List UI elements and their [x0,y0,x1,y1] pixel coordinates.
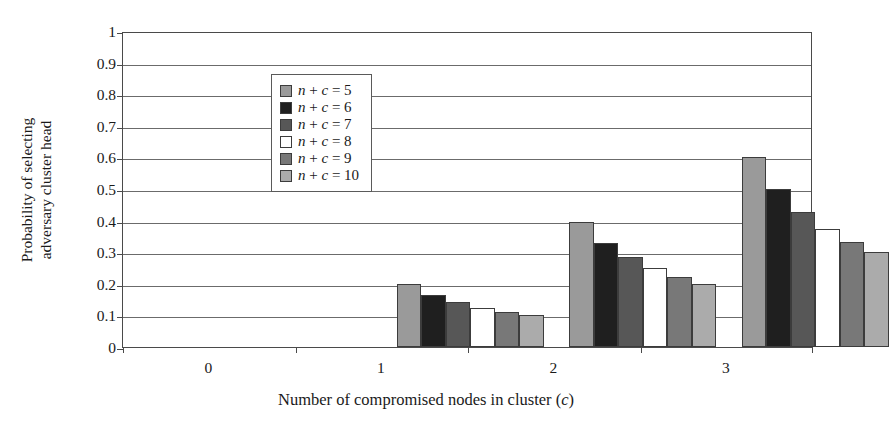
y-tick-label: 0.2 [64,277,116,293]
bar [397,284,422,347]
bar [618,257,643,347]
y-tick-label: 0.1 [64,309,116,325]
bar [495,312,520,347]
y-tick-label: 0.7 [64,119,116,135]
gridline [123,128,811,129]
x-axis-title-italic-c: c [561,390,568,409]
y-tick-mark [117,286,123,287]
y-tick-label: 0.9 [64,56,116,72]
y-tick-label: 0.8 [64,87,116,103]
bar [742,157,767,347]
x-tick-label: 1 [377,360,385,376]
bar [519,315,544,347]
bar [594,243,619,347]
legend-swatch-icon [280,102,292,114]
legend-item: n + c = 8 [280,133,359,150]
x-axis-title: Number of compromised nodes in cluster (… [0,390,852,410]
bar [692,284,717,347]
y-tick-mark [117,96,123,97]
legend-label: n + c = 9 [298,151,352,166]
y-tick-mark [117,65,123,66]
y-tick-mark [117,254,123,255]
gridline [123,254,811,255]
x-tick-mark [123,347,124,353]
legend-label: n + c = 8 [298,134,352,149]
gridline [123,65,811,66]
x-tick-label: 3 [722,360,730,376]
y-tick-mark [117,223,123,224]
bar [815,229,840,348]
legend-item: n + c = 9 [280,150,359,167]
gridline [123,191,811,192]
y-axis-title-line-1: Probability of selecting [17,118,36,263]
legend-label: n + c = 6 [298,100,352,115]
legend-item: n + c = 7 [280,116,359,133]
y-tick-label: 0.3 [64,245,116,261]
bar [667,277,692,347]
y-tick-label: 0.4 [64,214,116,230]
legend: n + c = 5n + c = 6n + c = 7n + c = 8n + … [271,74,372,192]
legend-swatch-icon [280,170,292,182]
y-tick-mark [117,317,123,318]
x-axis-title-main: Number of compromised nodes in cluster ( [278,390,561,409]
plot-area: n + c = 5n + c = 6n + c = 7n + c = 8n + … [122,32,812,348]
x-axis-title-tail: ) [569,390,575,409]
x-tick-mark [812,347,813,353]
legend-swatch-icon [280,153,292,165]
x-tick-mark [296,347,297,353]
bar [470,308,495,348]
y-axis-title: Probability of selecting adversary clust… [14,32,58,348]
bar [446,302,471,347]
bar [791,212,816,347]
legend-item: n + c = 6 [280,99,359,116]
y-tick-label: 0.5 [64,182,116,198]
y-axis-title-line-2: adversary cluster head [36,118,55,263]
legend-swatch-icon [280,85,292,97]
y-tick-label: 0 [64,340,116,356]
x-tick-mark [641,347,642,353]
bar [421,295,446,347]
x-tick-mark [468,347,469,353]
bar [569,222,594,347]
bar [643,268,668,347]
y-tick-mark [117,33,123,34]
legend-item: n + c = 5 [280,82,359,99]
legend-label: n + c = 5 [298,83,352,98]
bar [840,242,865,347]
y-tick-mark [117,191,123,192]
bar [766,189,791,347]
y-tick-label: 1 [64,24,116,40]
bar [864,252,889,347]
x-tick-label: 2 [549,360,557,376]
y-tick-mark [117,128,123,129]
legend-swatch-icon [280,119,292,131]
y-tick-mark [117,159,123,160]
x-tick-label: 0 [204,360,212,376]
y-tick-label: 0.6 [64,151,116,167]
gridline [123,223,811,224]
legend-swatch-icon [280,136,292,148]
legend-item: n + c = 10 [280,167,359,184]
gridline [123,159,811,160]
legend-label: n + c = 10 [298,168,359,183]
legend-label: n + c = 7 [298,117,352,132]
gridline [123,96,811,97]
x-axis-tick-labels: 0123 [0,360,852,382]
